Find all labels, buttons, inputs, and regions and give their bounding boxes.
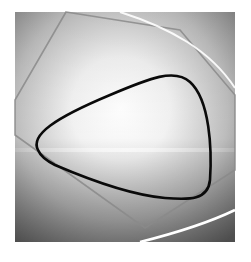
horizon-band: [5, 148, 245, 152]
abstract-render: [0, 0, 251, 262]
